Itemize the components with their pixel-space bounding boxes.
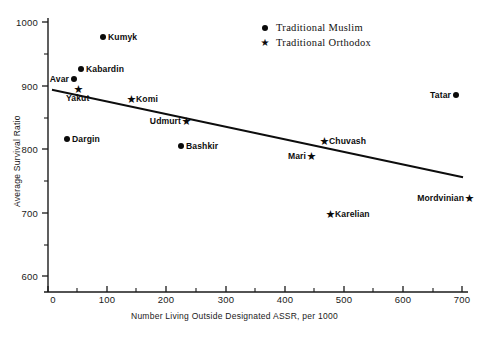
data-point-label: Mordvinian (417, 193, 464, 203)
data-point-label: Avar (50, 74, 69, 84)
filled-circle-icon (178, 143, 184, 149)
y-tick-label: 900 (8, 81, 38, 92)
filled-circle-icon (64, 136, 70, 142)
star-icon: ★ (465, 193, 475, 204)
star-icon: ★ (182, 116, 192, 127)
data-point-label: Kumyk (108, 32, 137, 42)
filled-circle-icon (78, 66, 84, 72)
plot-canvas (0, 0, 487, 337)
x-tick-label: 200 (156, 294, 176, 305)
data-point-label: Tatar (430, 90, 451, 100)
filled-circle-icon (453, 92, 459, 98)
legend: Traditional Muslim ★ Traditional Orthodo… (258, 20, 371, 50)
y-tick-label: 1000 (8, 17, 38, 28)
star-icon: ★ (307, 151, 317, 162)
regression-trend-line (53, 90, 462, 177)
x-tick-label: 0 (43, 294, 63, 305)
legend-item-muslim: Traditional Muslim (258, 20, 371, 35)
filled-circle-icon (100, 34, 106, 40)
data-point-label: Karelian (335, 209, 370, 219)
data-point-label: Dargin (72, 134, 100, 144)
star-icon: ★ (326, 209, 336, 220)
y-tick-label: 700 (8, 208, 38, 219)
x-axis-title: Number Living Outside Designated ASSR, p… (131, 311, 338, 321)
legend-item-orthodox: ★ Traditional Orthodox (258, 35, 371, 50)
x-tick-label: 600 (393, 294, 413, 305)
filled-circle-icon (258, 23, 272, 33)
star-icon: ★ (127, 94, 137, 105)
y-tick-label: 600 (8, 271, 38, 282)
data-point-label: Kabardin (86, 64, 124, 74)
data-point-label: Chuvash (329, 136, 366, 146)
legend-label: Traditional Muslim (276, 22, 363, 33)
data-point-label: Bashkir (186, 141, 218, 151)
x-tick-label: 700 (452, 294, 472, 305)
x-tick-label: 100 (97, 294, 117, 305)
filled-circle-icon (71, 76, 77, 82)
y-axis-title: Average Survival Ratio (12, 115, 22, 207)
x-tick-label: 300 (216, 294, 236, 305)
data-point-label: Yakut (66, 93, 89, 103)
legend-label: Traditional Orthodox (276, 37, 371, 48)
scatter-plot-figure: 1000 900 800 700 600 0 100 200 300 400 5… (0, 0, 487, 337)
data-point-label: Komi (136, 94, 158, 104)
star-icon: ★ (320, 136, 330, 147)
x-tick-label: 400 (275, 294, 295, 305)
star-icon: ★ (258, 38, 272, 48)
data-point-label: Udmurt (150, 116, 181, 126)
x-tick-label: 500 (334, 294, 354, 305)
data-point-label: Mari (288, 151, 306, 161)
